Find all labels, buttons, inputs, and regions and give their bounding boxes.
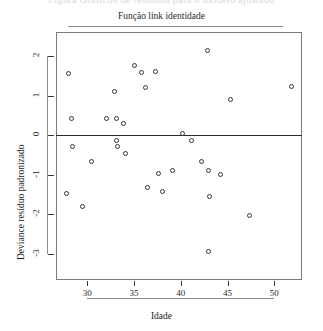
x-tick-label-35: 35 [122,288,146,298]
data-point [114,116,119,121]
zero-reference-line [56,135,302,136]
y-tick-label--3: -3 [31,243,41,263]
y-tick-label-0: 0 [31,124,41,144]
x-axis-line [87,298,274,299]
title-underline [68,26,283,27]
data-point [289,84,294,89]
data-point [89,159,94,164]
y-axis-line [47,56,48,254]
y-tick-2 [48,56,54,57]
data-point [104,116,109,121]
data-point [156,171,161,176]
x-axis-title: Idade [0,311,323,321]
y-tick--3 [48,254,54,255]
data-point [153,69,158,74]
y-tick--1 [48,175,54,176]
plot-frame [56,32,302,280]
y-tick-label--1: -1 [31,164,41,184]
y-tick-label-1: 1 [31,85,41,105]
chart-title: Função link identidade [0,11,323,21]
x-tick-50 [274,281,275,286]
scatter-plot-figure: Figura Gráficos de resíduos para o model… [0,0,323,331]
y-tick-1 [48,96,54,97]
x-tick-label-50: 50 [262,288,286,298]
x-tick-30 [87,281,88,286]
data-point [123,151,128,156]
x-tick-40 [181,281,182,286]
x-tick-label-30: 30 [75,288,99,298]
data-point [180,131,185,136]
y-tick-0 [48,135,54,136]
data-point [145,185,150,190]
x-tick-45 [228,281,229,286]
x-tick-label-40: 40 [169,288,193,298]
x-tick-35 [134,281,135,286]
y-tick-label-2: 2 [31,45,41,65]
data-point [199,159,204,164]
y-axis-title: Deviance resíduo padronizado [16,144,26,260]
data-point [218,172,223,177]
data-point [170,168,175,173]
y-tick-label--2: -2 [31,203,41,223]
x-tick-label-45: 45 [216,288,240,298]
y-tick--2 [48,214,54,215]
cropped-caption-text: Figura Gráficos de resíduos para o model… [0,0,323,6]
data-point [160,189,165,194]
